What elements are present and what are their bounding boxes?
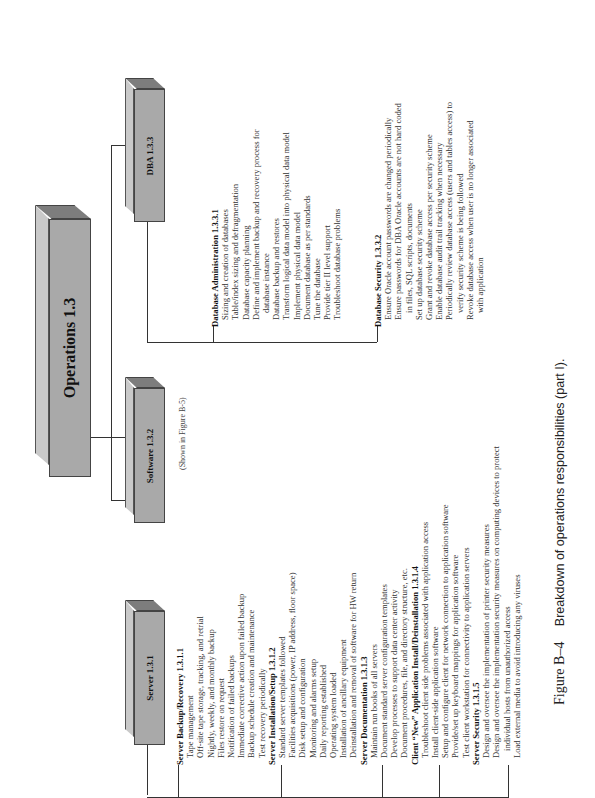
software-label: Software 1.3.2 [145, 428, 155, 483]
software-box-side [125, 377, 134, 515]
list-item: in files, SQL scripts, documents [404, 102, 414, 327]
list-item: Design and oversee the implementation se… [491, 446, 501, 765]
list-item: Provide/set up keyboard mappings for app… [450, 446, 460, 765]
dba-bracket-bottom [147, 342, 377, 343]
server-label: Server 1.3.1 [145, 655, 155, 701]
section-title: Server Security 1.3.1.5 [471, 446, 481, 765]
dba-tick-1 [213, 325, 214, 342]
list-item: Define and implement backup and recovery… [251, 129, 261, 327]
software-box: Software 1.3.2 [125, 377, 165, 523]
list-item: Daily reporting established [318, 446, 328, 765]
list-item: Document standard server configuration t… [379, 446, 389, 765]
server-tick-3 [382, 765, 383, 797]
dba-box: DBA 1.3.3 [125, 78, 165, 222]
list-item: Document procedures, file, and directory… [399, 446, 409, 765]
section-title: Server Backup/Recovery 1.3.1.1 [175, 446, 185, 765]
list-item: Off-site tape storage, tracking, and ret… [195, 446, 205, 765]
dba-box-front: DBA 1.3.3 [134, 89, 165, 222]
list-item: Test client workstation for connectivity… [461, 446, 471, 765]
list-item: Sizing and creation of databases [220, 129, 230, 327]
section-title: Database Security 1.3.3.2 [373, 102, 383, 327]
list-item: Enable database audit trail tracking whe… [434, 102, 444, 327]
server-tick-4 [439, 765, 440, 797]
list-item: Set up database security scheme [414, 102, 424, 327]
section-title: Server Installation/Setup 1.3.1.2 [267, 446, 277, 765]
list-item: Backup schedule creation and maintenance [246, 446, 256, 765]
server-section-backup: Server Backup/Recovery 1.3.1.1 Tape mana… [175, 446, 522, 765]
list-item: Document database as per standards [302, 129, 312, 327]
list-item: Ensure Oracle account passwords are chan… [383, 102, 393, 327]
list-item: Revoke database access when user is no l… [465, 102, 475, 327]
list-item: individual hosts from unauthorized acces… [502, 446, 512, 765]
dba-tick-2 [377, 325, 378, 342]
list-item: Test recovery periodically [257, 446, 267, 765]
dba-drop-line [147, 222, 148, 342]
list-item: Standard server templates followed [277, 446, 287, 765]
server-box: Server 1.3.1 [125, 600, 165, 745]
list-item: Deinstallation and removal of software f… [348, 446, 358, 765]
list-item: Transform logical data model into physic… [281, 129, 291, 327]
list-item: Operating system loaded [328, 446, 338, 765]
list-item: database instance [261, 129, 271, 327]
list-item: Periodically review database access (use… [444, 102, 454, 327]
connector-root-software [91, 437, 126, 438]
server-tick-5 [508, 765, 509, 797]
list-item: Grant and revoke database access per sec… [424, 102, 434, 327]
list-item: Table/index sizing and defragmentation [230, 129, 240, 327]
section-title: Server Documentation 1.3.1.3 [359, 446, 369, 765]
list-item: Develop processes to support data center… [389, 446, 399, 765]
server-box-front: Server 1.3.1 [134, 611, 165, 745]
list-item: Design and oversee the implementation of… [481, 446, 491, 765]
dba-section-admin: Database Administration 1.3.3.1 Sizing a… [210, 129, 343, 327]
figure-caption: Figure B–4 Breakdown of operations respo… [552, 359, 568, 705]
operations-box-side [35, 205, 49, 465]
list-item: Database capacity planning [241, 129, 251, 327]
figure-number: Figure B–4 [552, 642, 567, 705]
connector-to-dba [111, 145, 126, 146]
server-drop-line [147, 745, 148, 795]
list-item: Install client-side application software [430, 446, 440, 765]
server-box-side [125, 600, 134, 737]
operations-box-front: Operations 1.3 [49, 219, 91, 477]
list-item: Ensure passwords for DBA Oracle accounts… [393, 102, 403, 327]
list-item: Maintain run books of all servers [369, 446, 379, 765]
operations-box: Operations 1.3 [35, 205, 91, 477]
list-item: Disk setup and configuration [297, 446, 307, 765]
list-item: Load external media to avoid introducing… [512, 446, 522, 765]
connector-trunk [111, 145, 112, 500]
figure-caption-text: Breakdown of operations responsibilities… [553, 359, 567, 627]
software-box-front: Software 1.3.2 [134, 388, 165, 523]
dba-box-side [125, 78, 134, 214]
list-item: Monitoring and alarms setup [308, 446, 318, 765]
list-item: Immediate corrective action upon failed … [236, 446, 246, 765]
section-title: Database Administration 1.3.3.1 [210, 129, 220, 327]
list-item: Files restore on request [216, 446, 226, 765]
list-item: Database backup and restores [271, 129, 281, 327]
list-item: verify security scheme is being followed [455, 102, 465, 327]
list-item: Facilities acquisitions (power, IP addre… [287, 446, 297, 765]
dba-section-security: Database Security 1.3.3.2 Ensure Oracle … [373, 102, 485, 327]
list-item: Troubleshoot database problems [332, 129, 342, 327]
list-item: Nightly, weekly, and monthly backup [206, 446, 216, 765]
list-item: with application [475, 102, 485, 327]
operations-label: Operations 1.3 [61, 298, 79, 398]
list-item: Troubleshoot client side problems associ… [420, 446, 430, 765]
list-item: Installation of ancillary equipment [338, 446, 348, 765]
list-item: Implement physical data model [292, 129, 302, 327]
connector-to-server [111, 500, 126, 501]
list-item: Notification of failed backups [226, 446, 236, 765]
server-tick-2 [281, 765, 282, 797]
section-title: Client “New” Application Install/Deinsta… [410, 446, 420, 765]
list-item: Tune the database [312, 129, 322, 327]
server-tick-1 [178, 765, 179, 797]
list-item: Provide tier II level support [322, 129, 332, 327]
dba-label: DBA 1.3.3 [145, 136, 155, 175]
list-item: Tape management [185, 446, 195, 765]
list-item: Setup and configure client for network c… [440, 446, 450, 765]
